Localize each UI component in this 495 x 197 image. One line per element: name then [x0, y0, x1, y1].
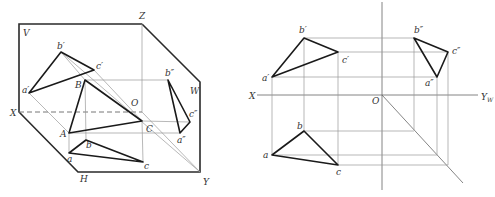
- label-b-double-prime: b″: [414, 25, 424, 35]
- label-b: b: [297, 121, 303, 131]
- label-W: W: [190, 86, 200, 96]
- label-c: c: [336, 167, 341, 177]
- label-b-prime: b′: [57, 41, 65, 51]
- right-orthographic-diagram: X O YW b′ c′ a′ b″ c″ a″ b a c: [248, 2, 494, 190]
- triangle-w-projection: [168, 80, 190, 133]
- left-pictorial-diagram: V Z W X O H Y b′ c′ a′ B A C b″ c″ a″ b …: [9, 11, 210, 187]
- projector-lines: [272, 38, 448, 165]
- label-c-double-prime: c″: [452, 46, 461, 56]
- label-b-double-prime: b″: [165, 68, 175, 78]
- label-a-prime: a′: [22, 85, 29, 95]
- label-H: H: [79, 174, 88, 184]
- 45-degree-line: [382, 95, 463, 183]
- projection-diagram: V Z W X O H Y b′ c′ a′ B A C b″ c″ a″ b …: [0, 0, 495, 197]
- label-X: X: [248, 91, 256, 101]
- label-Y: Y: [203, 177, 210, 187]
- label-C: C: [146, 124, 153, 134]
- label-Z: Z: [138, 11, 146, 21]
- label-B: B: [74, 80, 82, 90]
- label-V: V: [23, 28, 31, 38]
- label-a: a: [263, 150, 268, 160]
- triangle-top-view: [272, 131, 338, 165]
- label-X: X: [9, 108, 17, 118]
- label-b-prime: b′: [299, 25, 307, 35]
- label-a-double-prime: a″: [425, 78, 434, 88]
- label-O: O: [372, 96, 380, 106]
- label-c-prime: c′: [342, 55, 349, 65]
- label-a-prime: a′: [262, 73, 269, 83]
- triangle-side-view: [414, 38, 448, 77]
- triangle-front-view: [272, 38, 338, 77]
- label-c-double-prime: c″: [189, 109, 198, 119]
- label-c-prime: c′: [96, 61, 103, 71]
- label-b: b: [86, 140, 92, 150]
- label-c: c: [144, 161, 149, 171]
- label-O: O: [131, 98, 139, 108]
- label-Yw: YW: [481, 92, 494, 103]
- label-a-double-prime: a″: [177, 135, 186, 145]
- label-a: a: [67, 154, 72, 164]
- triangle-h-projection: [69, 140, 143, 162]
- label-A: A: [59, 129, 67, 139]
